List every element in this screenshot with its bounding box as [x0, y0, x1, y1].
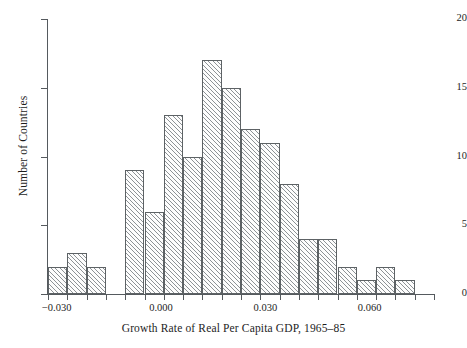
x-tick-mark	[338, 295, 339, 300]
histogram-bar	[48, 267, 67, 295]
histogram-bar	[87, 267, 106, 295]
x-tick-mark	[222, 295, 223, 300]
x-axis-title: Growth Rate of Real Per Capita GDP, 1965…	[0, 322, 467, 334]
y-axis-title: Number of Countries	[17, 66, 29, 226]
histogram-bar	[125, 170, 144, 294]
y-tick-label: 15	[433, 82, 467, 93]
histogram-bar	[338, 267, 357, 295]
x-tick-label: 0.060	[358, 303, 382, 314]
x-tick-mark	[434, 295, 435, 300]
histogram-figure: 05101520 −0.0300.0000.0300.060 Growth Ra…	[0, 0, 467, 348]
x-tick-mark	[376, 295, 377, 300]
x-tick-mark	[164, 295, 165, 300]
histogram-bar	[299, 239, 318, 294]
histogram-bar	[241, 129, 260, 294]
x-tick-label: 0.000	[149, 303, 173, 314]
y-tick-label: 5	[433, 219, 467, 230]
y-tick-label: 20	[433, 13, 467, 24]
x-tick-mark	[183, 295, 184, 300]
histogram-bar	[318, 239, 337, 294]
x-tick-mark	[395, 295, 396, 300]
y-tick-mark	[41, 157, 47, 158]
plot-area	[48, 19, 434, 294]
y-tick-mark	[41, 294, 47, 295]
histogram-bar	[145, 212, 164, 295]
y-tick-label: 0	[433, 288, 467, 299]
histogram-bar	[222, 88, 241, 294]
x-tick-mark	[260, 295, 261, 300]
x-tick-mark	[280, 295, 281, 300]
histogram-bar	[183, 157, 202, 295]
x-tick-mark	[299, 295, 300, 300]
histogram-bar	[395, 280, 414, 294]
x-tick-mark	[106, 295, 107, 300]
histogram-bar	[357, 280, 376, 294]
y-tick-mark	[41, 225, 47, 226]
histogram-bar	[67, 253, 86, 294]
x-tick-mark	[202, 295, 203, 300]
x-tick-mark	[48, 295, 49, 300]
x-tick-mark	[87, 295, 88, 300]
x-tick-mark	[145, 295, 146, 300]
histogram-bar	[376, 267, 395, 295]
histogram-bar	[260, 143, 279, 294]
x-tick-label: −0.030	[42, 303, 72, 314]
x-tick-mark	[415, 295, 416, 300]
x-tick-mark	[357, 295, 358, 300]
x-tick-label: 0.030	[254, 303, 278, 314]
histogram-bar	[164, 115, 183, 294]
x-tick-mark	[125, 295, 126, 300]
x-tick-mark	[67, 295, 68, 300]
y-tick-mark	[41, 19, 47, 20]
histogram-bar	[202, 60, 221, 294]
x-tick-mark	[318, 295, 319, 300]
x-tick-mark	[241, 295, 242, 300]
y-tick-label: 10	[433, 151, 467, 162]
y-tick-mark	[41, 88, 47, 89]
histogram-bar	[280, 184, 299, 294]
